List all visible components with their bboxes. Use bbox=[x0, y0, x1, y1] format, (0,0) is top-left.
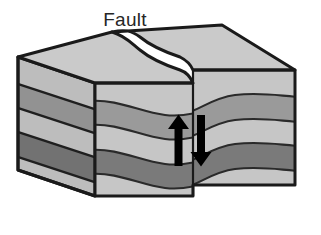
front-face-left-block bbox=[90, 75, 200, 205]
block-diagram-svg bbox=[0, 0, 321, 235]
fault-block-diagram: Fault bbox=[0, 0, 321, 235]
front-face-right-block bbox=[188, 60, 303, 200]
